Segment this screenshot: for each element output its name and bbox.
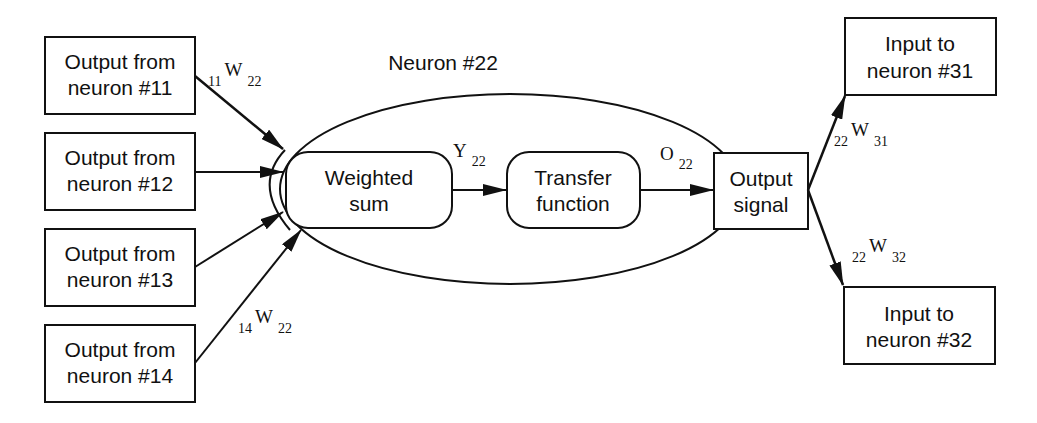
input-node-label: Output from: [65, 50, 176, 73]
output-node-31: Input to neuron #31: [845, 18, 996, 95]
arrow-from-14: [195, 230, 301, 363]
weight-label-11-22: 11W22: [208, 59, 261, 89]
input-node-13: Output from neuron #13: [45, 229, 195, 306]
output-signal-label: Output: [729, 167, 792, 190]
output-signal-label: signal: [734, 193, 789, 216]
transfer-function-node: Transfer function: [507, 152, 640, 228]
weight-label-14-22: 14W22: [238, 306, 292, 336]
y22-label: Y22: [453, 140, 486, 169]
input-node-label: neuron #11: [68, 76, 173, 99]
weighted-sum-label: Weighted: [325, 166, 413, 189]
weight-label-22-31: 22W31: [834, 119, 888, 149]
weight-label-22-32: 22W32: [852, 235, 906, 265]
input-node-label: Output from: [65, 146, 176, 169]
neuron-title: Neuron #22: [388, 51, 498, 74]
output-node-32: Input to neuron #32: [844, 287, 995, 364]
input-node-label: neuron #13: [67, 268, 173, 291]
input-node-12: Output from neuron #12: [45, 133, 195, 210]
transfer-function-label: function: [536, 192, 610, 215]
output-signal-node: Output signal: [714, 153, 808, 229]
output-node-label: Input to: [884, 302, 954, 325]
weighted-sum-node: Weighted sum: [286, 152, 452, 228]
neuron-diagram: Neuron #22 Output from neuron #11 Output…: [0, 0, 1037, 423]
input-node-label: Output from: [65, 242, 176, 265]
input-node-label: neuron #14: [67, 364, 174, 387]
input-node-label: Output from: [65, 338, 176, 361]
o22-label: O22: [660, 143, 693, 172]
arrow-from-13: [195, 212, 283, 267]
output-node-label: neuron #32: [866, 328, 972, 351]
arrow-to-32: [808, 190, 843, 285]
input-node-14: Output from neuron #14: [45, 325, 195, 402]
input-node-11: Output from neuron #11: [45, 37, 195, 114]
output-node-label: neuron #31: [867, 59, 973, 82]
weighted-sum-label: sum: [349, 192, 389, 215]
input-node-label: neuron #12: [67, 172, 173, 195]
transfer-function-label: Transfer: [534, 166, 611, 189]
output-node-label: Input to: [885, 32, 955, 55]
